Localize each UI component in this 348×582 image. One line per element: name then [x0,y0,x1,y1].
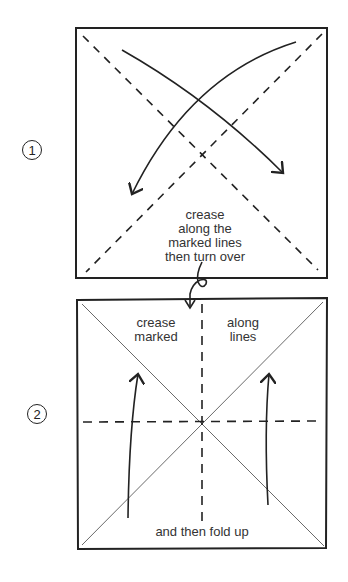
instruction-line: along the [150,222,260,236]
fold-arrow-right-to-left [132,42,296,194]
label-line: crease [128,316,184,330]
fold-up-arrow-right [266,374,269,505]
label-line: lines [218,330,268,344]
step-number-1-text: 1 [28,143,35,158]
step-2-square [77,298,327,549]
turn-over-arrow-icon [185,262,206,308]
label-line: marked [128,330,184,344]
fold-up-arrow-left [128,374,138,518]
creased-diagonal-tl-br [82,304,324,546]
origami-diagram [0,0,348,582]
instruction-line: crease [150,208,260,222]
dashed-horizontal-midline [83,421,323,422]
step-number-2-text: 2 [33,407,40,422]
label-line: along [218,316,268,330]
instruction-line: then turn over [150,250,260,264]
step-2-label-bottom: and then fold up [140,525,264,539]
step-2-label-top-right: along lines [218,316,268,344]
step-number-1: 1 [22,140,42,160]
label-line: and then fold up [140,525,264,539]
instruction-line: marked lines [150,236,260,250]
step-1-instruction: crease along the marked lines then turn … [150,208,260,264]
step-2-label-top-left: crease marked [128,316,184,344]
step-number-2: 2 [27,404,47,424]
